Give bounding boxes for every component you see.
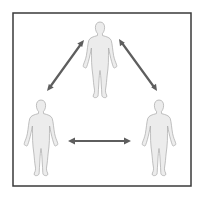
relationship-diagram [0, 0, 202, 199]
